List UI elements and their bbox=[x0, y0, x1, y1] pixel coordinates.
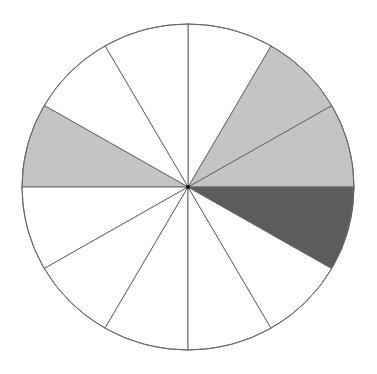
fraction-circle-diagram bbox=[0, 0, 377, 374]
center-point bbox=[186, 185, 190, 189]
